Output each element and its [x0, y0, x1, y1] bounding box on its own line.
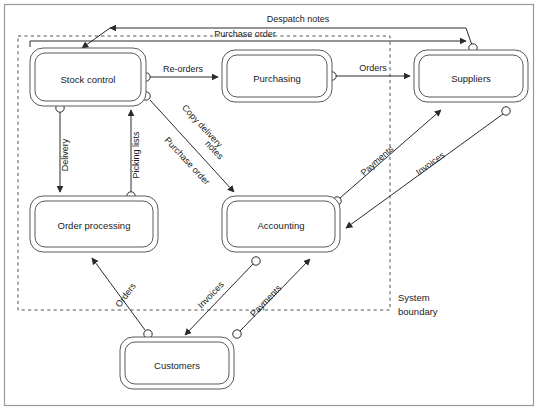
diagram-canvas: Despatch notes Purchase order Re-orders …	[0, 0, 543, 420]
flow-label-orders-supplier: Orders	[359, 63, 387, 73]
node-label-customers: Customers	[154, 360, 200, 371]
flow-label-re-orders: Re-orders	[163, 64, 204, 74]
node-order-processing[interactable]: Order processing	[30, 196, 158, 252]
node-label-order-processing: Order processing	[58, 220, 131, 231]
node-label-accounting: Accounting	[257, 220, 304, 231]
node-stock-control[interactable]: Stock control	[30, 48, 146, 106]
system-boundary-label-line2: boundary	[398, 306, 438, 317]
node-accounting[interactable]: Accounting	[222, 196, 340, 252]
node-customers[interactable]: Customers	[120, 337, 234, 389]
node-label-stock-control: Stock control	[61, 74, 116, 85]
data-flow-diagram: Despatch notes Purchase order Re-orders …	[0, 0, 543, 420]
node-label-suppliers: Suppliers	[451, 73, 491, 84]
node-purchasing[interactable]: Purchasing	[222, 50, 332, 102]
flow-label-picking-lists: Picking lists	[131, 131, 141, 179]
flow-label-despatch-notes: Despatch notes	[267, 14, 330, 24]
flow-label-purchase-order-top: Purchase order	[214, 29, 276, 39]
system-boundary-label-line1: System	[398, 292, 430, 303]
flow-label-delivery: Delivery	[60, 138, 70, 171]
node-label-purchasing: Purchasing	[253, 73, 301, 84]
node-suppliers[interactable]: Suppliers	[414, 50, 528, 102]
